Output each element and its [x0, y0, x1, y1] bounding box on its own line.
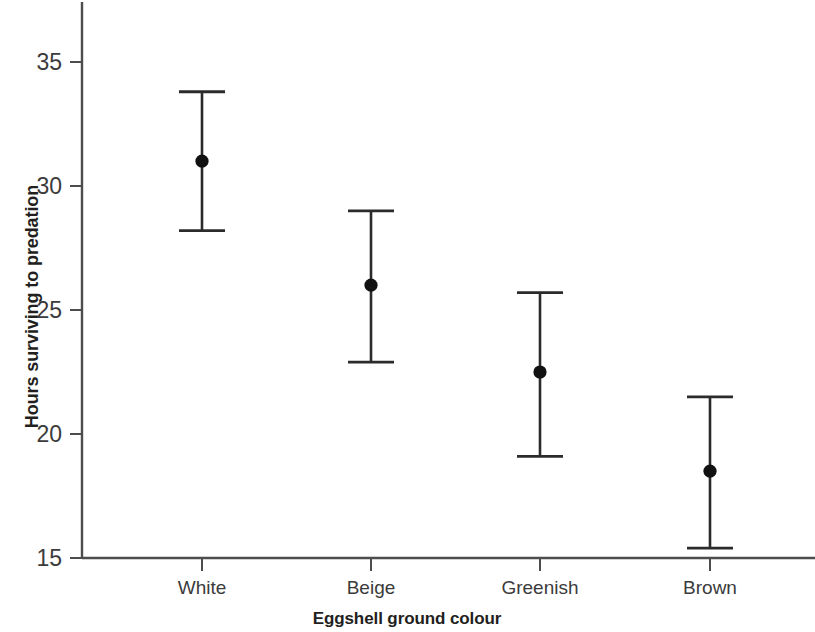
y-tick-group: 1520253035	[36, 49, 82, 571]
data-series-group	[179, 92, 733, 548]
data-point-marker	[533, 365, 546, 378]
figure-container: Hours surviving to predation Eggshell gr…	[0, 0, 815, 632]
y-tick-label: 15	[36, 545, 62, 571]
x-tick-group: WhiteBeigeGreenishBrown	[178, 558, 737, 598]
scatter-plot-with-error-bars: 1520253035 WhiteBeigeGreenishBrown	[0, 0, 815, 632]
x-tick-label: Brown	[683, 577, 737, 598]
data-point-group	[179, 92, 225, 231]
data-point-group	[517, 293, 563, 457]
data-point-marker	[195, 155, 208, 168]
y-tick-label: 25	[36, 297, 62, 323]
data-point-marker	[703, 465, 716, 478]
y-tick-label: 35	[36, 49, 62, 75]
x-tick-label: White	[178, 577, 227, 598]
y-tick-label: 30	[36, 173, 62, 199]
x-tick-label: Beige	[347, 577, 396, 598]
data-point-group	[687, 397, 733, 548]
x-tick-label: Greenish	[501, 577, 578, 598]
data-point-marker	[364, 279, 377, 292]
data-point-group	[348, 211, 394, 362]
y-tick-label: 20	[36, 421, 62, 447]
